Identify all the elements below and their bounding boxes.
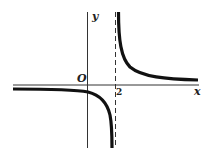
x-axis-label: x <box>193 85 201 98</box>
curve-right-branch <box>119 12 199 80</box>
origin-label: O <box>77 72 87 85</box>
asymptote-label: 2 <box>116 87 122 97</box>
y-axis-label: y <box>91 10 100 23</box>
curve-left-branch <box>13 89 112 148</box>
graph: y x O 2 <box>0 0 210 159</box>
